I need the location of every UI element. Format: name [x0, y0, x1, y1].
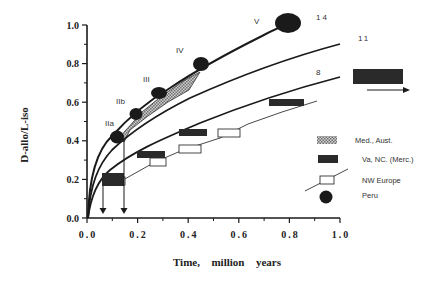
y-tick-label: 0.0	[67, 213, 80, 224]
x-tick-label: 1.0	[332, 229, 351, 240]
x-axis-title: Time, million years	[173, 256, 282, 268]
legend: Med., Aust. Va, NC. (Merc.) NW Europe Pe…	[305, 136, 414, 204]
right-arrow-icon	[367, 87, 410, 93]
x-tick-label: 0.2	[129, 229, 148, 240]
va-nc-box	[179, 129, 207, 136]
legend-swatch-med-aust	[317, 136, 337, 144]
chart: 0.0 0.2 0.4 0.6 0.8 1.0 D-allo/L-iso 0.0…	[0, 0, 435, 281]
nw-europe-box	[218, 129, 240, 137]
y-tick-label: 0.2	[67, 174, 80, 185]
stage-label-III: III	[143, 75, 150, 84]
x-tick-label: 0.4	[180, 229, 199, 240]
va-nc-box	[137, 151, 165, 158]
y-tick-label: 1.0	[67, 20, 80, 31]
down-arrow-icon	[100, 186, 107, 214]
y-tick-label: 0.8	[67, 58, 80, 69]
peru-series	[110, 13, 301, 144]
x-axis	[87, 218, 340, 223]
x-tick-labels: 0.0 0.2 0.4 0.6 0.8 1.0	[79, 229, 351, 240]
stage-label-IIa: IIa	[105, 119, 114, 128]
x-tick-label: 0.6	[231, 229, 250, 240]
peru-marker-IV	[193, 57, 209, 71]
legend-label: Peru	[362, 191, 378, 200]
nw-europe-box	[179, 145, 201, 153]
peru-marker-III	[151, 87, 167, 99]
va-nc-box	[102, 173, 124, 186]
legend-swatch-nw-europe	[320, 176, 334, 184]
x-tick-label: 0.0	[79, 229, 98, 240]
legend-swatch-peru	[320, 191, 333, 204]
nw-europe-box	[150, 158, 166, 166]
curve-label-11: 11	[358, 34, 370, 43]
y-tick-label: 0.4	[67, 135, 80, 146]
peru-marker-IIb	[130, 108, 143, 120]
y-axis	[82, 25, 87, 218]
peru-marker-IIa	[110, 131, 124, 144]
va-nc-box	[269, 99, 304, 106]
legend-swatch-va-nc	[318, 155, 338, 163]
curve-label-14: 14	[316, 13, 329, 22]
legend-label: Va, NC. (Merc.)	[362, 155, 414, 164]
curve-label-8: 8	[316, 68, 321, 77]
legend-label: Med., Aust.	[355, 136, 393, 145]
stage-label-IIb: IIb	[116, 97, 125, 106]
stage-label-V: V	[254, 17, 260, 26]
legend-label: NW Europe	[362, 176, 401, 185]
va-nc-box	[353, 69, 403, 84]
curve-14	[88, 23, 292, 218]
peru-marker-V	[275, 13, 301, 33]
stage-label-IV: IV	[176, 46, 184, 55]
y-tick-labels: 0.0 0.2 0.4 0.6 0.8 1.0	[67, 20, 80, 224]
y-axis-title: D-allo/L-iso	[18, 107, 30, 163]
va-nc-series	[102, 69, 403, 186]
y-tick-label: 0.6	[67, 97, 80, 108]
curve-8	[88, 77, 340, 218]
x-tick-label: 0.8	[281, 229, 300, 240]
